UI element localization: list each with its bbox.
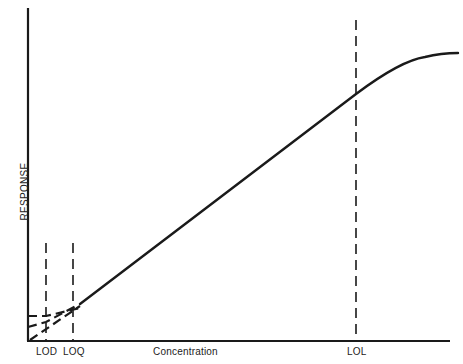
calibration-curve bbox=[80, 53, 458, 304]
lol-label: LOL bbox=[347, 346, 367, 357]
loq-label: LOQ bbox=[63, 346, 85, 357]
y-axis-label: RESPONSE bbox=[19, 162, 30, 222]
calibration-chart bbox=[0, 0, 463, 364]
x-axis-label: Concentration bbox=[153, 346, 218, 357]
lod-label: LOD bbox=[36, 346, 57, 357]
